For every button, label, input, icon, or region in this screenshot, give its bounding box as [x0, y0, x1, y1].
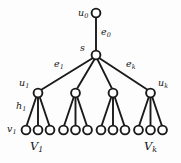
edge-uk-leaf3 [152, 97, 162, 126]
label-v1-subscript: 1 [12, 128, 16, 136]
edges-layer [27, 17, 162, 125]
node-leaf-5 [71, 126, 80, 135]
edge-s-u2 [77, 59, 95, 88]
node-leaf-1 [22, 126, 31, 135]
node-s [92, 51, 101, 60]
label-uk: uk [158, 78, 168, 88]
node-u1 [34, 89, 43, 98]
node-uk [146, 89, 155, 98]
node-u0 [92, 9, 101, 18]
label-e1-base: e [54, 58, 60, 69]
node-leaf-12 [158, 126, 167, 135]
label-ek-base: e [126, 58, 132, 69]
label-s: s [80, 43, 85, 53]
label-u1-subscript: 1 [25, 82, 29, 90]
edge-u3-leaf1 [102, 97, 112, 126]
nodes-layer [22, 9, 167, 135]
node-leaf-3 [46, 126, 55, 135]
node-leaf-4 [59, 126, 68, 135]
label-e1-subscript: 1 [60, 63, 64, 71]
label-s-base: s [80, 42, 85, 53]
label-h1-subscript: 1 [22, 105, 26, 113]
label-e1: e1 [54, 59, 64, 69]
label-h1: h1 [16, 101, 26, 111]
node-leaf-9 [121, 126, 130, 135]
label-e0-subscript: 0 [107, 31, 111, 39]
node-leaf-2 [34, 126, 43, 135]
label-Vk-subscript: k [152, 145, 157, 154]
node-leaf-7 [97, 126, 106, 135]
tree-diagram-figure: u0e0se1eku1ukh1v1V1Vk [0, 0, 181, 163]
edge-u3-leaf3 [115, 97, 125, 126]
node-leaf-8 [109, 126, 118, 135]
label-V1-subscript: 1 [38, 145, 43, 154]
node-leaf-10 [134, 126, 143, 135]
edge-u1-leaf3 [40, 97, 50, 126]
edge-uk-leaf1 [139, 97, 149, 126]
node-leaf-6 [83, 126, 92, 135]
label-u1: u1 [19, 78, 29, 88]
edge-u2-leaf3 [77, 97, 87, 126]
label-e0: e0 [101, 27, 111, 37]
edge-u2-leaf1 [64, 97, 74, 126]
label-e0-base: e [101, 26, 107, 37]
node-leaf-11 [146, 126, 155, 135]
label-V1: V1 [30, 141, 43, 153]
edge-s-u3 [98, 59, 113, 88]
edge-ek [100, 58, 148, 90]
label-u0: u0 [78, 8, 88, 18]
edge-h1 [27, 97, 37, 126]
label-ek-subscript: k [132, 63, 136, 71]
label-uk-subscript: k [164, 82, 168, 90]
node-u3 [109, 89, 118, 98]
node-u2 [71, 89, 80, 98]
label-u0-subscript: 0 [84, 12, 88, 20]
label-ek: ek [126, 59, 136, 69]
label-v1: v1 [7, 124, 16, 134]
label-Vk: Vk [144, 141, 157, 153]
